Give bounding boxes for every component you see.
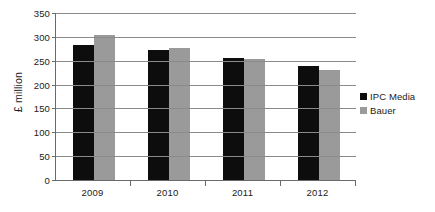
legend-label: Bauer [370,105,396,116]
y-axis-tick [52,85,56,86]
x-axis-tick [130,181,131,186]
legend-item: IPC Media [360,90,434,103]
chart-legend: IPC MediaBauer [360,90,434,118]
gridline [56,37,356,38]
y-axis-tick [52,37,56,38]
bar [319,70,340,180]
legend-label: IPC Media [370,91,415,102]
y-axis-tick-label: 100 [24,127,50,138]
y-axis-tick-label: 300 [24,31,50,42]
bars-layer [56,13,356,180]
y-axis-tick [52,132,56,133]
x-axis: 2009201020112012 [55,181,355,209]
y-axis-tick [52,156,56,157]
bar [148,50,169,180]
gridline [56,13,356,14]
legend-swatch-icon [360,107,367,114]
gridline [56,108,356,109]
gridline [56,132,356,133]
y-axis-tick-label: 50 [24,151,50,162]
x-axis-tick [205,181,206,186]
x-axis-tick [280,181,281,186]
y-axis-tick-labels: 050100150200250300350 [22,0,50,212]
x-axis-tick [355,181,356,186]
bar-chart: £ million 050100150200250300350 20092010… [0,0,435,212]
bar [223,58,244,180]
bar [169,48,190,180]
x-axis-tick-label: 2010 [157,187,179,198]
legend-item: Bauer [360,104,434,117]
y-axis-tick-label: 200 [24,79,50,90]
bar [244,59,265,180]
bar [298,66,319,181]
x-axis-tick-label: 2012 [307,187,329,198]
gridline [56,85,356,86]
y-axis-tick [52,108,56,109]
y-axis-tick-label: 250 [24,55,50,66]
y-axis-tick-label: 0 [24,175,50,186]
x-axis-tick-label: 2009 [82,187,104,198]
legend-swatch-icon [360,93,367,100]
y-axis-tick-label: 350 [24,8,50,19]
y-axis-tick-label: 150 [24,103,50,114]
gridline [56,61,356,62]
plot-area [55,13,356,181]
gridline [56,156,356,157]
bar [73,45,94,181]
y-axis-tick [52,13,56,14]
x-axis-tick-label: 2011 [232,187,253,198]
y-axis-tick [52,61,56,62]
